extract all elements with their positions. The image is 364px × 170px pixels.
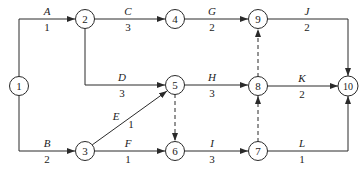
activity-j-duration: 2 xyxy=(304,21,310,33)
node-2: 2 xyxy=(76,10,95,29)
activity-a-name: A xyxy=(43,5,51,17)
activity-l-name: L xyxy=(298,137,305,149)
activity-a-duration: 1 xyxy=(44,21,50,33)
activity-e-name: E xyxy=(112,110,120,122)
node-7: 7 xyxy=(249,142,268,161)
node-5: 5 xyxy=(166,76,185,95)
node-4-label: 4 xyxy=(172,13,178,25)
activity-b-duration: 2 xyxy=(44,153,50,165)
activity-c-duration: 3 xyxy=(125,21,131,33)
node-10: 10 xyxy=(338,76,358,96)
activity-f-duration: 1 xyxy=(125,153,131,165)
node-6-label: 6 xyxy=(172,145,178,157)
node-2-label: 2 xyxy=(82,13,88,25)
network-diagram: A 1 B 2 C 3 D 3 E 1 F 1 G 2 H 3 I 3 J 2 … xyxy=(0,0,364,170)
node-9-label: 9 xyxy=(255,13,261,25)
node-5-label: 5 xyxy=(172,79,178,91)
node-3: 3 xyxy=(76,142,95,161)
activity-f-name: F xyxy=(124,137,132,149)
activity-g-duration: 2 xyxy=(209,21,215,33)
node-1: 1 xyxy=(10,77,29,96)
activity-l-duration: 1 xyxy=(299,153,305,165)
activity-i-duration: 3 xyxy=(209,153,215,165)
node-10-label: 10 xyxy=(343,81,353,92)
node-4: 4 xyxy=(166,10,185,29)
activity-b-name: B xyxy=(44,137,51,149)
node-7-label: 7 xyxy=(255,145,261,157)
node-8-label: 8 xyxy=(255,80,261,92)
activity-k-name: K xyxy=(297,72,306,84)
activity-h-name: H xyxy=(207,71,217,83)
activity-h-duration: 3 xyxy=(209,87,215,99)
activity-i-name: I xyxy=(209,137,215,149)
activity-e-duration: 1 xyxy=(128,118,134,130)
activity-d-name: D xyxy=(117,71,126,83)
activity-c-name: C xyxy=(124,5,132,17)
node-1-label: 1 xyxy=(16,80,22,92)
activity-k-duration: 2 xyxy=(299,88,305,100)
node-3-label: 3 xyxy=(82,145,88,157)
node-8: 8 xyxy=(249,77,268,96)
node-9: 9 xyxy=(249,10,268,29)
activity-l-arrow xyxy=(267,96,348,151)
activity-d-duration: 3 xyxy=(119,87,125,99)
node-6: 6 xyxy=(166,142,185,161)
activity-g-name: G xyxy=(208,5,216,17)
activity-j-name: J xyxy=(305,5,311,17)
